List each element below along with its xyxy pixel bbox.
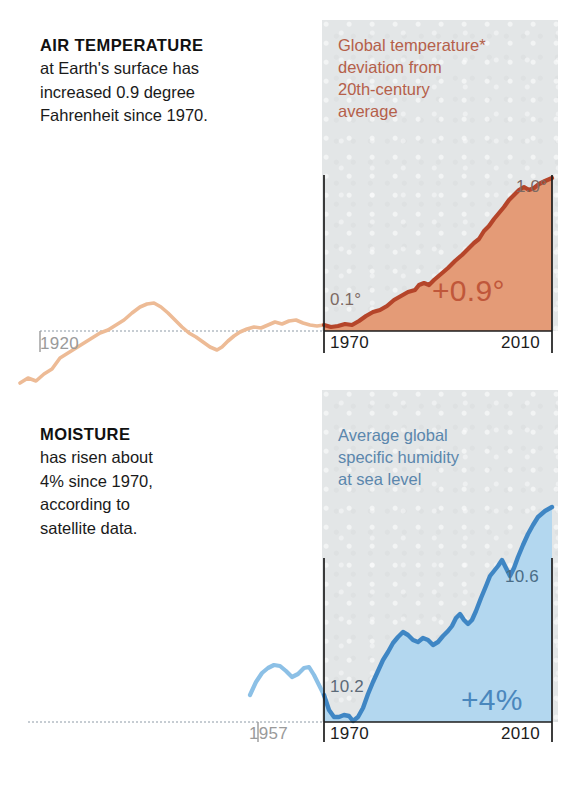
- temperature-heading: AIR TEMPERATURE: [40, 34, 295, 57]
- temperature-title-line-4: average: [338, 100, 553, 122]
- moisture-heading: MOISTURE: [40, 423, 295, 446]
- temperature-title-line-3: 20th-century: [338, 78, 553, 100]
- temperature-tick-label-1920: 1920: [40, 334, 79, 354]
- temperature-title-line-1: Global temperature*: [338, 34, 553, 56]
- moisture-historical-line: [250, 665, 324, 695]
- temperature-change-value: +0.9°: [432, 274, 505, 308]
- temperature-chart-title: Global temperature* deviation from 20th-…: [338, 34, 553, 122]
- temperature-body-line-1: at Earth's surface has: [40, 57, 295, 81]
- moisture-body-line-3: according to: [40, 493, 295, 517]
- moisture-chart-title: Average global specific humidity at sea …: [338, 424, 553, 490]
- moisture-title-line-3: at sea level: [338, 468, 553, 490]
- moisture-body-line-4: satellite data.: [40, 517, 295, 541]
- temperature-title-line-2: deviation from: [338, 56, 553, 78]
- temperature-description: AIR TEMPERATURE at Earth's surface has i…: [40, 34, 295, 128]
- moisture-start-value: 10.2: [330, 677, 364, 697]
- moisture-description: MOISTURE has risen about 4% since 1970, …: [40, 423, 295, 540]
- moisture-body-line-1: has risen about: [40, 446, 295, 470]
- temperature-start-value: 0.1°: [330, 290, 361, 310]
- moisture-tick-label-1970: 1970: [330, 724, 369, 744]
- moisture-title-line-1: Average global: [338, 424, 553, 446]
- temperature-end-value: 1.0°: [516, 177, 547, 197]
- temperature-body-line-2: increased 0.9 degree: [40, 81, 295, 105]
- moisture-tick-label-1957: 1957: [249, 724, 288, 744]
- temperature-tick-label-1970: 1970: [330, 333, 369, 353]
- temperature-tick-label-2010: 2010: [501, 333, 540, 353]
- moisture-tick-label-2010: 2010: [501, 724, 540, 744]
- moisture-title-line-2: specific humidity: [338, 446, 553, 468]
- moisture-change-value: +4%: [461, 683, 523, 717]
- moisture-body-line-2: 4% since 1970,: [40, 470, 295, 494]
- climate-infographic: AIR TEMPERATURE at Earth's surface has i…: [0, 0, 576, 798]
- moisture-end-value: 10.6: [505, 567, 539, 587]
- temperature-body-line-3: Fahrenheit since 1970.: [40, 104, 295, 128]
